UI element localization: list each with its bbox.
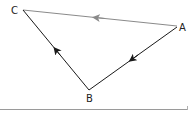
arrow-icon	[132, 55, 138, 59]
arrow-icon	[56, 50, 60, 55]
edge-b-to-c	[23, 10, 89, 90]
vertex-label-c: C	[11, 5, 18, 16]
vertex-label-a: A	[179, 22, 186, 33]
edge-a-to-b	[89, 27, 177, 90]
vertex-label-b: B	[86, 93, 93, 104]
triangle-diagram: C A B	[0, 0, 193, 113]
edge-a-to-c	[23, 10, 177, 26]
arrow-icon	[96, 18, 105, 19]
